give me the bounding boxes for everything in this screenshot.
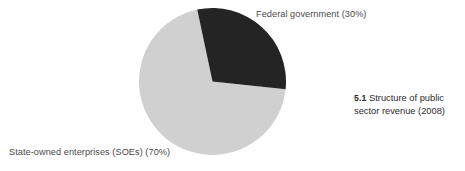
pie-chart-svg xyxy=(139,8,286,155)
pie-label-state-owned-enterprises: State-owned enterprises (SOEs) (70%) xyxy=(9,147,170,158)
figure-caption-number: 5.1 xyxy=(354,93,367,103)
figure-caption-text: Structure of public sector revenue (2008… xyxy=(354,93,445,116)
pie-label-federal-government: Federal government (30%) xyxy=(256,9,366,20)
pie-chart xyxy=(139,8,286,155)
figure-root: Federal government (30%) State-owned ent… xyxy=(0,0,465,171)
figure-caption: 5.1Structure of public sector revenue (2… xyxy=(354,92,460,117)
